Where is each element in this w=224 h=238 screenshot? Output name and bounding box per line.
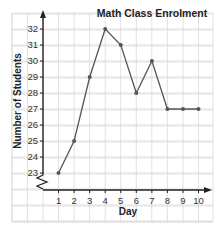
x-axis-label: Day xyxy=(119,206,138,217)
x-tick-label: 6 xyxy=(134,195,139,206)
data-point xyxy=(150,59,154,63)
y-tick-label: 30 xyxy=(27,55,38,66)
data-point xyxy=(88,75,92,79)
x-tick-label: 2 xyxy=(71,195,76,206)
x-tick-label: 10 xyxy=(193,195,204,206)
y-tick-label: 26 xyxy=(27,119,38,130)
x-tick-label: 3 xyxy=(87,195,92,206)
x-tick-label: 8 xyxy=(165,195,170,206)
y-tick-label: 23 xyxy=(27,167,38,178)
x-tick-label: 7 xyxy=(149,195,154,206)
line-chart: Math Class Enrolment 2324252627282930313… xyxy=(0,0,224,238)
axes xyxy=(37,10,212,193)
y-tick-label: 31 xyxy=(27,39,38,50)
x-tick-label: 5 xyxy=(118,195,123,206)
data-point xyxy=(134,91,138,95)
y-tick-label: 28 xyxy=(27,87,38,98)
x-tick-label: 9 xyxy=(180,195,185,206)
y-axis-label: Number of Students xyxy=(12,53,23,149)
x-tick-label: 1 xyxy=(56,195,61,206)
x-tick-label: 4 xyxy=(103,195,108,206)
y-tick-label: 24 xyxy=(27,151,38,162)
data-point xyxy=(57,171,61,175)
chart-title: Math Class Enrolment xyxy=(97,7,208,19)
y-tick-label: 32 xyxy=(27,23,38,34)
data-line xyxy=(59,29,199,173)
y-tick-label: 25 xyxy=(27,135,38,146)
data-point xyxy=(165,107,169,111)
data-markers xyxy=(57,27,201,175)
data-point xyxy=(181,107,185,111)
data-point xyxy=(103,27,107,31)
y-tick-label: 27 xyxy=(27,103,38,114)
data-point xyxy=(197,107,201,111)
x-axis-ticks: 12345678910 xyxy=(56,190,204,206)
data-point xyxy=(72,139,76,143)
y-axis-ticks: 23242526272829303132 xyxy=(27,23,43,178)
y-tick-label: 29 xyxy=(27,71,38,82)
data-point xyxy=(119,43,123,47)
